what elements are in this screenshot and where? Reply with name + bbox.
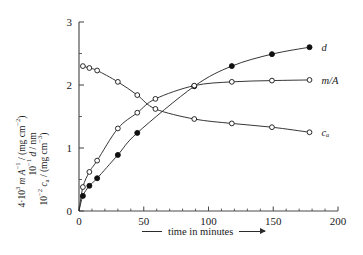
data-point-c_a — [135, 93, 140, 98]
data-point-m/A — [80, 185, 85, 190]
y-axis-ticks — [79, 22, 84, 211]
data-point-m/A — [192, 83, 197, 88]
chart-axes — [79, 22, 338, 211]
data-point-d — [95, 176, 100, 181]
data-point-c_a — [80, 64, 85, 69]
y-tick-label: 2 — [67, 79, 73, 91]
data-point-m/A — [307, 78, 312, 83]
series-label-m/A: m/A — [322, 75, 340, 86]
x-axis-ticks — [79, 207, 338, 212]
caption-arrow-icon — [239, 231, 265, 232]
data-point-d — [307, 45, 312, 50]
data-point-c_a — [192, 117, 197, 122]
chart-canvas: 050100150200 0123 dm/Acₐ — [0, 0, 363, 255]
x-axis-caption: time in minutes — [142, 226, 265, 237]
y-tick-label: 3 — [67, 16, 73, 28]
x-tick-label: 0 — [76, 215, 82, 227]
data-point-m/A — [229, 79, 234, 84]
chart-series-curves — [79, 47, 310, 211]
series-curve-c_a — [83, 66, 310, 132]
series-label-c_a: cₐ — [322, 127, 330, 138]
chart-series-labels: dm/Acₐ — [322, 42, 340, 138]
series-label-d: d — [322, 42, 328, 53]
series-curve-m/A — [79, 80, 310, 211]
x-axis-caption-text: time in minutes — [168, 226, 233, 237]
data-point-m/A — [115, 126, 120, 131]
data-point-c_a — [95, 68, 100, 73]
series-curve-d — [79, 47, 310, 211]
data-point-d — [80, 193, 85, 198]
data-point-d — [135, 130, 140, 135]
caption-dash — [142, 231, 162, 232]
data-point-c_a — [307, 130, 312, 135]
data-point-m/A — [135, 110, 140, 115]
data-point-c_a — [115, 79, 120, 84]
data-point-m/A — [95, 158, 100, 163]
data-point-d — [229, 64, 234, 69]
data-point-d — [269, 52, 274, 57]
data-point-c_a — [270, 125, 275, 130]
y-tick-label: 1 — [67, 142, 73, 154]
x-tick-label: 200 — [330, 215, 347, 227]
y-axis-tick-labels: 0123 — [67, 16, 73, 217]
data-point-c_a — [87, 66, 92, 71]
data-point-d — [87, 183, 92, 188]
data-point-d — [115, 152, 120, 157]
data-point-m/A — [153, 96, 158, 101]
y-tick-label: 0 — [67, 205, 73, 217]
data-point-m/A — [87, 170, 92, 175]
data-point-c_a — [229, 121, 234, 126]
data-point-c_a — [153, 107, 158, 112]
x-tick-label: 150 — [265, 215, 282, 227]
chart-series-markers — [80, 45, 312, 199]
data-point-m/A — [270, 78, 275, 83]
chart-figure: 050100150200 0123 dm/Acₐ 10−1 d / nm 4·1… — [0, 0, 363, 255]
